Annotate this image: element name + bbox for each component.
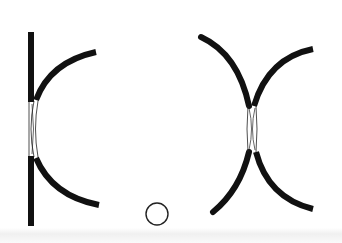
arc-upper-left (201, 37, 249, 106)
neck-outline-left (247, 106, 248, 152)
contact-diagram (0, 0, 342, 243)
left-contact-pair (29, 32, 99, 226)
neck-outline-right (256, 106, 257, 152)
arc-lower-right (256, 152, 313, 209)
arc-upper (36, 52, 96, 100)
neck-outline-inner (36, 101, 39, 157)
arc-lower-left (213, 152, 249, 212)
neck-outline-cross-b (253, 108, 256, 150)
arc-lower (36, 158, 99, 205)
arc-upper-right (254, 49, 313, 106)
right-contact-pair (201, 37, 313, 212)
neck-outline-cross-a (249, 108, 252, 150)
open-circle-marker (146, 203, 168, 225)
